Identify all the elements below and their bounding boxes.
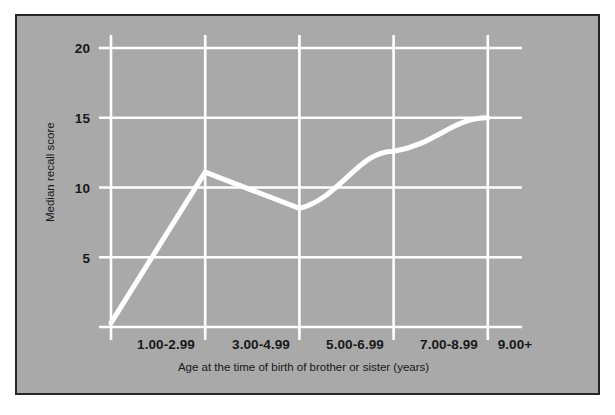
x-tick-label-1: 3.00-4.99 bbox=[232, 337, 290, 352]
y-tick-label-20: 20 bbox=[58, 41, 90, 56]
y-tick-label-5: 5 bbox=[58, 251, 90, 266]
figure-root: 20 15 10 5 1.00-2.99 3.00-4.99 5.00-6.99… bbox=[0, 0, 615, 415]
y-tick-label-10: 10 bbox=[58, 181, 90, 196]
x-tick-label-0: 1.00-2.99 bbox=[137, 337, 195, 352]
y-axis-title: Median recall score bbox=[44, 122, 56, 222]
y-tick-label-15: 15 bbox=[58, 111, 90, 126]
x-axis-title: Age at the time of birth of brother or s… bbox=[0, 361, 615, 373]
x-tick-label-2: 5.00-6.99 bbox=[326, 337, 384, 352]
x-tick-label-4: 9.00+ bbox=[498, 337, 533, 352]
x-tick-label-3: 7.00-8.99 bbox=[420, 337, 478, 352]
x-axis-title-text: Age at the time of birth of brother or s… bbox=[178, 361, 429, 373]
